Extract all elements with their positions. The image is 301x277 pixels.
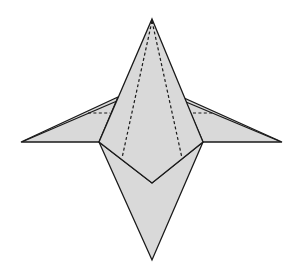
origami-diagram	[0, 0, 301, 277]
